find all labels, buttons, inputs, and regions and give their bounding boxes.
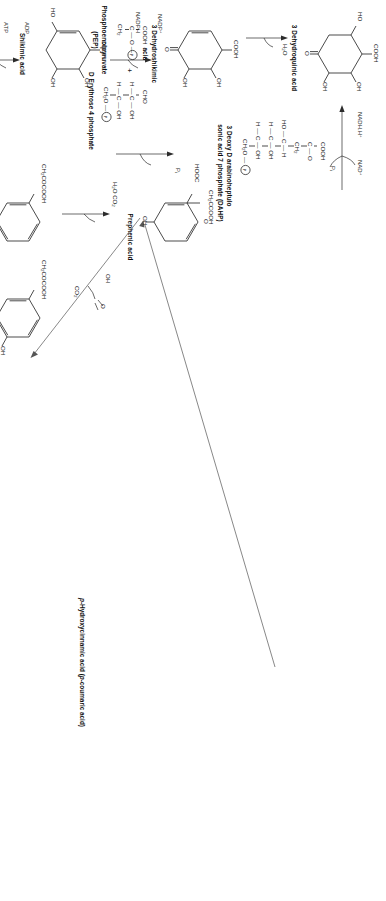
footer-caption: p-Hydroxycinnamic acid (p-coumaric acid) [79,598,86,727]
pathway-canvas: COOH C — O — P CH2 Phosphoenolpyruvate (… [0,0,386,901]
arrow-dhq-to-dhs [240,8,290,68]
arrow-label-atp: ATP [3,22,9,33]
arrow-label-co2: CO2 [73,286,80,297]
arrow-label-h2o-1: H2O [281,44,288,55]
arrow-label-nadh: NADH.H+ [357,112,364,138]
dhs-label-cooh: COOH [233,40,239,59]
dhq-label-ho: HO [357,12,363,21]
dhq-label-oh-2: OH [322,82,328,91]
shikimic-label-oh-1: OH [84,78,90,87]
prephenic-label-o: O [203,219,209,224]
arrow-label-h2o-co2: H2O CO2 [111,182,118,207]
dhs-ring [164,6,236,102]
dhs-label-oh-2: OH [182,78,188,87]
hppa-label-side: CH2COCOOH [40,260,47,299]
arrow-label-nadph: NADPH [135,12,141,33]
hppa-label-oh: OH [0,346,6,355]
arrow-label-o-branch: O [100,304,106,309]
prephenic-label-hooc: HOOC [194,164,200,183]
arrow-shikimic-to-phosphoshikimic [0,6,22,76]
dhq-caption: 3 Dehydroquinic acid [290,6,298,110]
dhq-label-oh-1: OH [356,82,362,91]
phenylpyruvic-label-side: CH2COCOOH [40,164,47,203]
dhs-label-o: O [164,47,170,52]
footer-caption-text: -Hydroxycinnamic acid ( [79,602,86,676]
arrow-label-pi-2: Pi [329,166,336,171]
svg-text:P: P [103,116,108,119]
arrow-label-adp: ADP [24,22,30,34]
arrow-label-nadp: NADP+ [157,14,164,33]
shikimic-ring [32,6,104,102]
prephenic-ring [134,166,214,296]
dhq-label-o: O [304,51,310,56]
dhq-label-cooh: COOH [373,44,379,63]
dhs-label-oh-1: OH [216,78,222,87]
arrow-dhs-to-shikimic [104,6,154,76]
dhq-ring [304,10,376,106]
shikimic-label-oh-2: OH [50,78,56,87]
shikimic-label-cooh: COOH [101,40,107,59]
arrow-label-oh-branch: OH [105,274,111,283]
shikimic-label-ho: HO [50,8,56,17]
arrow-label-nad: NAD+ [357,160,364,175]
